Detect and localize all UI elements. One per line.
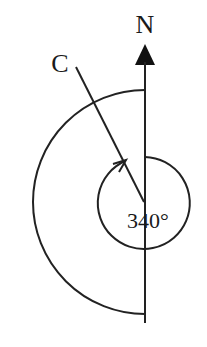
north-label: N xyxy=(136,10,155,39)
bearing-diagram: N C 340° xyxy=(0,0,207,347)
angle-arc-340 xyxy=(98,157,190,249)
large-reference-arc xyxy=(33,90,145,314)
bearing-line-to-c xyxy=(76,67,144,202)
angle-label: 340° xyxy=(127,208,169,233)
point-c-label: C xyxy=(51,49,68,78)
north-arrowhead-icon xyxy=(135,44,155,65)
